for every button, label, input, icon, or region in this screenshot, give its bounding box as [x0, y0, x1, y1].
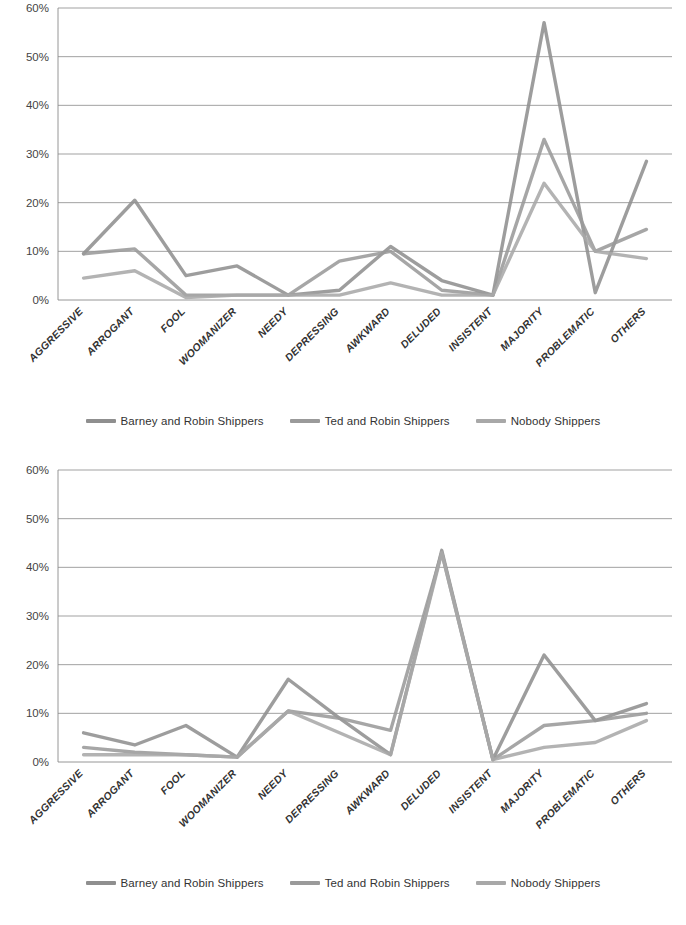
legend-swatch-icon [476, 881, 506, 885]
legend-item[interactable]: Barney and Robin Shippers [86, 415, 264, 427]
series-line-2 [84, 553, 647, 760]
y-axis-tick-label: 60% [26, 2, 49, 14]
y-axis-tick-label: 30% [26, 610, 49, 622]
x-axis-tick-label: FOOL [158, 767, 188, 797]
y-axis-tick-label: 50% [26, 51, 49, 63]
legend-swatch-icon [86, 419, 116, 423]
x-axis-tick-label: AWKWARD [342, 767, 392, 817]
x-axis-tick-label: INSISTENT [446, 304, 496, 354]
legend-swatch-icon [86, 881, 116, 885]
x-axis-tick-label: AGGRESSIVE [25, 766, 85, 826]
line-chart-top: 0%10%20%30%40%50%60%AGGRESSIVEARROGANTFO… [0, 0, 686, 405]
legend-label: Ted and Robin Shippers [325, 877, 450, 889]
chart-panel-bottom: 0%10%20%30%40%50%60%AGGRESSIVEARROGANTFO… [0, 462, 686, 925]
legend-item[interactable]: Nobody Shippers [476, 415, 601, 427]
y-axis-tick-label: 20% [26, 659, 49, 671]
y-axis-tick-label: 0% [32, 294, 49, 306]
x-axis-tick-label: FOOL [158, 305, 188, 335]
legend-bottom: Barney and Robin ShippersTed and Robin S… [0, 877, 686, 889]
legend-label: Nobody Shippers [511, 877, 601, 889]
y-axis-tick-label: 50% [26, 513, 49, 525]
series-line-0 [84, 550, 647, 759]
x-axis-tick-label: DELUDED [398, 305, 444, 351]
x-axis-tick-label: INSISTENT [446, 766, 496, 816]
legend-swatch-icon [476, 419, 506, 423]
line-chart-bottom: 0%10%20%30%40%50%60%AGGRESSIVEARROGANTFO… [0, 462, 686, 867]
x-axis-tick-label: MAJORITY [498, 766, 547, 815]
legend-label: Barney and Robin Shippers [121, 415, 264, 427]
y-axis-tick-label: 30% [26, 148, 49, 160]
legend-top: Barney and Robin ShippersTed and Robin S… [0, 415, 686, 427]
legend-item[interactable]: Ted and Robin Shippers [290, 877, 450, 889]
x-axis-tick-label: ARROGANT [83, 304, 137, 358]
legend-item[interactable]: Barney and Robin Shippers [86, 877, 264, 889]
x-axis-tick-label: AGGRESSIVE [25, 304, 85, 364]
legend-swatch-icon [290, 881, 320, 885]
x-axis-tick-label: DEPRESSING [282, 767, 341, 826]
y-axis-tick-label: 40% [26, 99, 49, 111]
x-axis-tick-label: ARROGANT [83, 766, 137, 820]
x-axis-tick-label: OTHERS [608, 767, 648, 807]
legend-label: Ted and Robin Shippers [325, 415, 450, 427]
y-axis-tick-label: 0% [32, 756, 49, 768]
series-line-1 [84, 139, 647, 295]
chart-panel-top: 0%10%20%30%40%50%60%AGGRESSIVEARROGANTFO… [0, 0, 686, 462]
x-axis-tick-label: NEEDY [255, 304, 290, 339]
legend-swatch-icon [290, 419, 320, 423]
x-axis-tick-label: OTHERS [608, 305, 648, 345]
y-axis-tick-label: 10% [26, 245, 49, 257]
x-axis-tick-label: DELUDED [398, 767, 444, 813]
y-axis-tick-label: 40% [26, 561, 49, 573]
y-axis-tick-label: 60% [26, 464, 49, 476]
x-axis-tick-label: NEEDY [255, 766, 290, 801]
series-line-0 [84, 23, 647, 296]
legend-label: Barney and Robin Shippers [121, 877, 264, 889]
x-axis-tick-label: AWKWARD [342, 305, 392, 355]
y-axis-tick-label: 10% [26, 707, 49, 719]
x-axis-tick-label: DEPRESSING [282, 305, 341, 364]
legend-item[interactable]: Ted and Robin Shippers [290, 415, 450, 427]
series-line-1 [84, 553, 647, 760]
legend-label: Nobody Shippers [511, 415, 601, 427]
legend-item[interactable]: Nobody Shippers [476, 877, 601, 889]
x-axis-tick-label: MAJORITY [498, 304, 547, 353]
y-axis-tick-label: 20% [26, 197, 49, 209]
